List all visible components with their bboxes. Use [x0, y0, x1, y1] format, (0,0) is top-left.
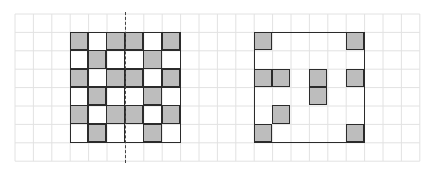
empty-cell [162, 87, 180, 105]
empty-cell [346, 50, 364, 68]
empty-cell [106, 124, 124, 142]
shaded-cell [254, 32, 272, 50]
shaded-cell [272, 69, 290, 87]
shaded-cell [309, 69, 327, 87]
shaded-cell [106, 69, 124, 87]
empty-cell [327, 69, 345, 87]
empty-cell [327, 124, 345, 142]
empty-cell [88, 105, 106, 123]
shaded-cell [346, 69, 364, 87]
shaded-cell [88, 87, 106, 105]
inner-grid-line [143, 32, 144, 142]
inner-grid-line [161, 32, 162, 142]
shaded-cell [125, 32, 143, 50]
empty-cell [346, 87, 364, 105]
background-grid [0, 0, 429, 172]
empty-cell [327, 105, 345, 123]
empty-cell [70, 124, 88, 142]
empty-cell [327, 87, 345, 105]
empty-cell [272, 124, 290, 142]
shaded-cell [88, 50, 106, 68]
empty-cell [254, 87, 272, 105]
empty-cell [309, 50, 327, 68]
empty-cell [290, 124, 308, 142]
shaded-cell [346, 32, 364, 50]
shaded-cell [309, 87, 327, 105]
shaded-cell [70, 32, 88, 50]
shaded-cell [143, 87, 161, 105]
diagram-canvas [0, 0, 429, 172]
empty-cell [327, 32, 345, 50]
empty-cell [290, 105, 308, 123]
shaded-cell [125, 69, 143, 87]
empty-cell [143, 105, 161, 123]
empty-cell [88, 69, 106, 87]
shaded-cell [106, 105, 124, 123]
shaded-cell [162, 105, 180, 123]
empty-cell [162, 124, 180, 142]
empty-cell [309, 32, 327, 50]
empty-cell [309, 124, 327, 142]
shaded-cell [254, 124, 272, 142]
empty-cell [70, 50, 88, 68]
shaded-cell [254, 69, 272, 87]
empty-cell [70, 87, 88, 105]
shaded-cell [162, 32, 180, 50]
empty-cell [254, 105, 272, 123]
empty-cell [143, 69, 161, 87]
empty-cell [327, 50, 345, 68]
shaded-cell [346, 124, 364, 142]
shaded-cell [125, 105, 143, 123]
empty-cell [272, 50, 290, 68]
empty-cell [125, 124, 143, 142]
empty-cell [290, 69, 308, 87]
empty-cell [272, 32, 290, 50]
empty-cell [290, 87, 308, 105]
shaded-cell [106, 32, 124, 50]
shaded-cell [162, 69, 180, 87]
empty-cell [125, 87, 143, 105]
empty-cell [162, 50, 180, 68]
right-pattern-square [254, 32, 364, 142]
empty-cell [106, 87, 124, 105]
empty-cell [290, 32, 308, 50]
empty-cell [290, 50, 308, 68]
empty-cell [106, 50, 124, 68]
shaded-cell [143, 124, 161, 142]
shaded-cell [272, 105, 290, 123]
empty-cell [88, 32, 106, 50]
symmetry-axis-dashed-line [125, 12, 126, 163]
empty-cell [309, 105, 327, 123]
empty-cell [143, 32, 161, 50]
shaded-cell [88, 124, 106, 142]
shaded-cell [143, 50, 161, 68]
empty-cell [346, 105, 364, 123]
empty-cell [125, 50, 143, 68]
shaded-cell [70, 105, 88, 123]
shaded-cell [70, 69, 88, 87]
empty-cell [272, 87, 290, 105]
empty-cell [254, 50, 272, 68]
